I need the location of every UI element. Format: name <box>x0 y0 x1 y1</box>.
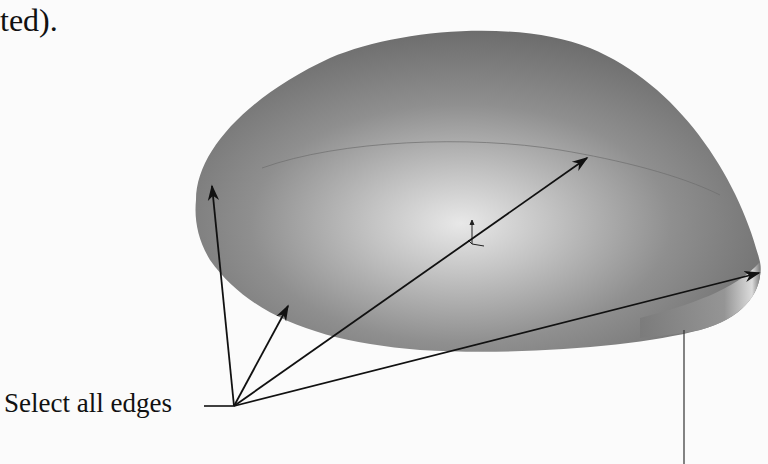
arrow-lower-edge <box>234 306 288 406</box>
dome-surface <box>196 31 761 352</box>
callout-label: Select all edges <box>4 386 172 420</box>
